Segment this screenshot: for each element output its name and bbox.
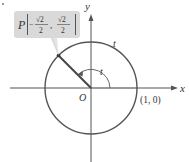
x-sign: −	[29, 20, 34, 29]
callout-pointer	[50, 37, 59, 56]
y-axis-label: y	[84, 0, 90, 12]
stray-dot	[2, 3, 4, 5]
x-axis-label: x	[179, 82, 185, 94]
comma: ,	[50, 20, 52, 30]
angle-label: t	[100, 66, 103, 77]
unit-circle-diagram: P − √2 2 , √2 2 y x O (1, 0) t t	[0, 0, 189, 162]
y-numerator: √2	[58, 15, 66, 24]
x-numerator: √2	[36, 15, 44, 24]
point-name: P	[17, 18, 26, 32]
x-axis-arrow-icon	[171, 86, 178, 91]
origin-label: O	[79, 92, 86, 103]
y-denominator: 2	[61, 26, 65, 35]
y-axis-arrow-icon	[89, 14, 94, 21]
arc-length-label: t	[113, 38, 116, 49]
x-denominator: 2	[39, 26, 43, 35]
radius-to-p	[59, 56, 92, 89]
point-one-zero-label: (1, 0)	[140, 95, 161, 106]
